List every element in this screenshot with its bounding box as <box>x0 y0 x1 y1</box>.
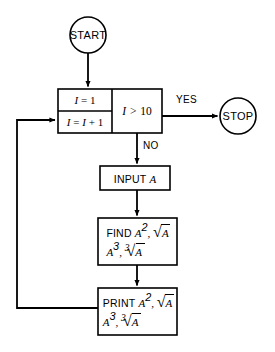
input-box-shape <box>100 166 170 190</box>
edge-feedback-loop <box>17 120 98 308</box>
flowchart-diagram: START STOP I = 1 I = I + 1 I > 10 YES NO <box>0 0 275 352</box>
edge-label-no: NO <box>143 140 159 151</box>
find-box-shape <box>98 218 177 265</box>
edge-label-yes: YES <box>176 94 197 105</box>
print-box-shape <box>98 288 177 335</box>
start-terminal-shape <box>70 17 106 53</box>
flowchart-canvas <box>0 0 275 352</box>
stop-terminal-shape <box>220 98 256 134</box>
